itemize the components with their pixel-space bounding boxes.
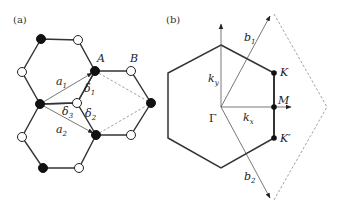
panel-b-label: (b): [166, 14, 180, 25]
atom-A: [147, 99, 156, 108]
atom-B: [18, 68, 27, 77]
kx-label: kx: [243, 111, 254, 126]
delta2-label: δ2: [85, 107, 97, 122]
atom-B: [127, 131, 136, 140]
unit-cell-dashed: [95, 71, 151, 135]
M-label: M: [277, 94, 290, 107]
point-K: [271, 70, 277, 76]
point-M: [271, 104, 277, 110]
atom-B: [75, 164, 84, 173]
atom-A: [91, 67, 100, 76]
panel-a-label: (a): [13, 14, 27, 25]
gamma-label: Γ: [209, 112, 217, 125]
atom-B: [127, 67, 136, 76]
atom-A: [37, 35, 46, 44]
Kprime-label: K′: [279, 132, 291, 145]
atom-B: [74, 36, 83, 45]
sublattice-A-label: A: [96, 52, 105, 65]
ky-label: ky: [208, 72, 220, 87]
atom-B: [18, 133, 27, 142]
K-label: K: [279, 66, 289, 79]
atom-A: [36, 100, 45, 109]
point-Kprime: [271, 135, 277, 141]
atom-A: [92, 131, 101, 140]
panel-b-brillouin-zone: (b) Γ K M K′ ky kx b1 b2: [166, 14, 327, 200]
delta3-label: δ3: [62, 105, 74, 120]
graphene-lattice-figure: (a): [0, 0, 340, 210]
sublattice-B-label: B: [129, 52, 138, 65]
delta1-label: δ1: [84, 82, 95, 97]
atom-A: [39, 164, 48, 173]
vector-b2-label: b2: [244, 170, 256, 185]
vector-b1-label: b1: [244, 31, 256, 46]
vector-a2-label: a2: [56, 123, 68, 138]
vector-a1-label: a1: [56, 75, 67, 90]
atom-B: [73, 99, 82, 108]
vector-b1-arrow: [221, 16, 270, 107]
panel-a-honeycomb-lattice: (a): [13, 14, 156, 173]
